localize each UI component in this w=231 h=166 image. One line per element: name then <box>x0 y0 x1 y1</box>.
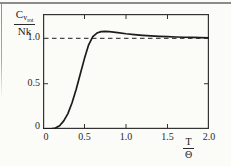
x-tick-label: 1.5 <box>157 131 179 143</box>
y-tick-label: 0.5 <box>18 77 40 89</box>
y-tick-label: 1.0 <box>18 31 40 43</box>
page-left-rule <box>1 3 2 99</box>
figure-page: Cvrot Nk T Θ 00.51.01.52.000.51.0 <box>0 0 231 166</box>
plot-frame <box>43 14 209 129</box>
y-axis-label-numerator: Cvrot <box>14 8 35 25</box>
plot-area <box>43 14 209 129</box>
x-tick-label: 1.0 <box>115 131 137 143</box>
page-top-rule <box>0 2 231 4</box>
y-axis-label-subsub: rot <box>27 17 33 23</box>
x-tick-label: 0.5 <box>74 131 96 143</box>
x-tick-label: 0 <box>35 131 57 143</box>
x-axis-label-numerator: T <box>183 137 193 149</box>
heat-capacity-curve <box>43 31 209 129</box>
x-tick-label: 2.0 <box>198 131 220 143</box>
x-axis-label-denominator: Θ <box>182 149 195 160</box>
y-tick-label: 0 <box>18 120 40 132</box>
x-axis-label: T Θ <box>182 132 195 160</box>
